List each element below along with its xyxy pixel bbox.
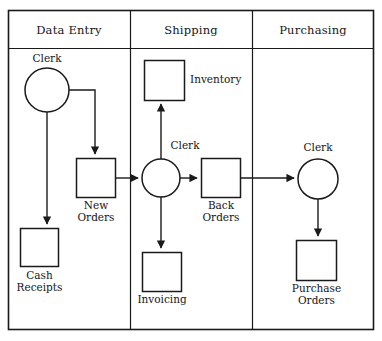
lane-header-data-entry: Data Entry <box>8 23 130 37</box>
diagram-canvas: Data Entry Shipping Purchasing Clerk Cas… <box>0 0 382 341</box>
node-label-clerk-shipping: Clerk <box>155 140 215 152</box>
node-label-clerk-purchasing: Clerk <box>288 142 348 154</box>
lane-header-shipping: Shipping <box>130 23 252 37</box>
node-label-inventory: Inventory <box>190 74 252 86</box>
node-clerk-data-entry <box>25 68 69 112</box>
node-label-cash-receipts: Cash Receipts <box>9 270 70 293</box>
node-label-invoicing: Invoicing <box>132 294 192 306</box>
node-clerk-purchasing <box>298 159 338 199</box>
node-inventory <box>145 61 185 101</box>
lane-header-purchasing: Purchasing <box>252 23 374 37</box>
node-label-new-orders: New Orders <box>66 200 126 223</box>
node-label-purchase-orders: Purchase Orders <box>286 283 347 306</box>
node-invoicing <box>143 253 182 292</box>
node-purchase-orders <box>297 241 337 281</box>
node-label-clerk-data-entry: Clerk <box>17 53 77 65</box>
node-back-orders <box>202 159 241 198</box>
node-label-back-orders: Back Orders <box>191 200 251 223</box>
node-new-orders <box>77 159 116 198</box>
node-cash-receipts <box>21 229 59 267</box>
node-clerk-shipping <box>142 159 180 197</box>
